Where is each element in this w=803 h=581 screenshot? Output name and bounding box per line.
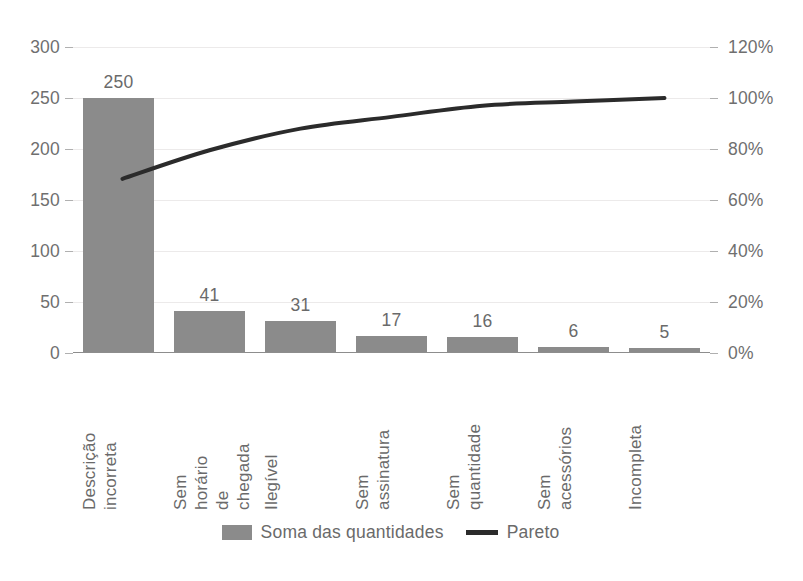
- y-axis-right-tick-label: 40%: [728, 241, 803, 262]
- x-axis-baseline: [73, 352, 710, 354]
- x-axis-category-label-line: chegada: [233, 360, 254, 510]
- y-axis-left-tick-mark: [65, 251, 73, 252]
- x-axis-category-label-line: Sem: [534, 360, 555, 510]
- y-axis-left-tick-label: 150: [0, 190, 60, 211]
- x-axis-category-label: Semassinatura: [352, 360, 395, 510]
- y-axis-left-tick-mark: [65, 200, 73, 201]
- x-axis-category-label-line: assinatura: [373, 360, 394, 510]
- bar-value-label: 41: [200, 285, 220, 306]
- x-axis-category-label-line: Ilegível: [261, 360, 282, 510]
- plot-area: [73, 47, 710, 353]
- x-axis-category-label-line: acessórios: [555, 360, 576, 510]
- legend-item-bars: Soma das quantidades: [222, 522, 444, 543]
- x-axis-category-label-line: Descrição: [79, 360, 100, 510]
- x-axis-category-label-line: incorreta: [100, 360, 121, 510]
- y-axis-right-tick-label: 20%: [728, 292, 803, 313]
- y-axis-right-tick-mark: [710, 47, 718, 48]
- bar-value-label: 250: [104, 72, 134, 93]
- legend-line-label: Pareto: [507, 522, 560, 543]
- y-axis-right-tick-mark: [710, 98, 718, 99]
- x-axis-category-label-line: Sem: [170, 360, 191, 510]
- y-axis-left-tick-label: 200: [0, 139, 60, 160]
- y-axis-right-tick-label: 0%: [728, 343, 803, 364]
- y-axis-left-tick-label: 100: [0, 241, 60, 262]
- x-axis-category-label: Incompleta: [625, 360, 646, 510]
- x-axis-category-label: Semacessórios: [534, 360, 577, 510]
- y-axis-left-tick-mark: [65, 47, 73, 48]
- y-axis-right-tick-mark: [710, 353, 718, 354]
- y-axis-right-tick-label: 80%: [728, 139, 803, 160]
- legend-bars-label: Soma das quantidades: [261, 522, 444, 543]
- bar-value-label: 16: [473, 311, 493, 332]
- y-axis-right-tick-label: 120%: [728, 37, 803, 58]
- y-axis-left-tick-mark: [65, 149, 73, 150]
- x-axis-category-label: Semquantidade: [443, 360, 486, 510]
- y-axis-right-tick-label: 100%: [728, 88, 803, 109]
- legend-line-swatch-icon: [466, 530, 498, 535]
- bar-value-label: 5: [660, 322, 670, 343]
- x-axis-category-label-line: quantidade: [464, 360, 485, 510]
- y-axis-left-tick-mark: [65, 353, 73, 354]
- y-axis-left-tick-mark: [65, 302, 73, 303]
- bar-value-label: 6: [569, 321, 579, 342]
- x-axis-category-label: Ilegível: [261, 360, 282, 510]
- x-axis-category-label-line: Sem: [443, 360, 464, 510]
- chart-legend: Soma das quantidades Pareto: [0, 522, 803, 543]
- x-axis-category-labels: DescriçãoincorretaSemhoráriodechegadaIle…: [73, 360, 710, 510]
- y-axis-left-tick-mark: [65, 98, 73, 99]
- x-axis-category-label-line: horário: [191, 360, 212, 510]
- y-axis-left-tick-label: 0: [0, 343, 60, 364]
- y-axis-left-tick-label: 50: [0, 292, 60, 313]
- y-axis-right-tick-mark: [710, 200, 718, 201]
- x-axis-category-label-line: Incompleta: [625, 360, 646, 510]
- chart-title-remnant: [60, 0, 460, 2]
- y-axis-right-tick-mark: [710, 251, 718, 252]
- y-axis-right-tick-label: 60%: [728, 190, 803, 211]
- bar-value-label: 31: [291, 295, 311, 316]
- x-axis-category-label-line: de: [212, 360, 233, 510]
- pareto-line-path: [123, 98, 665, 179]
- pareto-line-series: [73, 47, 710, 353]
- y-axis-left-tick-label: 300: [0, 37, 60, 58]
- y-axis-left-tick-label: 250: [0, 88, 60, 109]
- x-axis-category-label-line: Sem: [352, 360, 373, 510]
- y-axis-right-tick-mark: [710, 302, 718, 303]
- x-axis-category-label: Descriçãoincorreta: [79, 360, 122, 510]
- legend-item-line: Pareto: [466, 522, 560, 543]
- bar-value-label: 17: [382, 310, 402, 331]
- legend-bar-swatch-icon: [222, 525, 252, 540]
- pareto-chart: 050100150200250300 0%20%40%60%80%100%120…: [0, 0, 803, 581]
- x-axis-category-label: Semhoráriodechegada: [170, 360, 255, 510]
- y-axis-right-tick-mark: [710, 149, 718, 150]
